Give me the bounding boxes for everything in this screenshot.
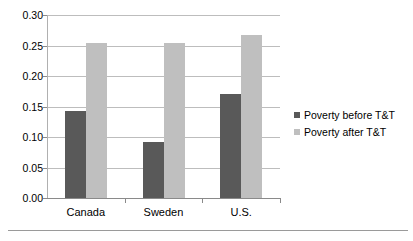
y-axis-tick-mark [43, 46, 47, 47]
x-axis-category-label: Canada [47, 206, 125, 219]
bar [65, 111, 86, 198]
y-axis-tick-labels: 0.000.050.100.150.200.250.30 [0, 0, 43, 241]
y-axis-tick-mark [43, 15, 47, 16]
bar [143, 142, 164, 198]
legend-swatch-icon [294, 112, 300, 118]
y-axis-tick-label: 0.30 [3, 10, 43, 21]
legend-swatch-icon [294, 129, 300, 135]
x-axis-tick-mark [125, 198, 126, 203]
legend-item: Poverty after T&T [294, 123, 412, 140]
y-axis-tick-label: 0.20 [3, 71, 43, 82]
y-axis-tick-mark [43, 107, 47, 108]
bar [86, 43, 107, 198]
y-axis-tick-label: 0.25 [3, 41, 43, 52]
legend-label: Poverty before T&T [304, 109, 395, 121]
y-axis-tick-mark [43, 168, 47, 169]
y-axis-tick-label: 0.05 [3, 163, 43, 174]
x-axis-tick-mark [280, 198, 281, 203]
chart-legend: Poverty before T&TPoverty after T&T [294, 106, 412, 140]
y-axis-tick-label: 0.00 [3, 193, 43, 204]
bar [220, 94, 241, 198]
legend-label: Poverty after T&T [304, 126, 386, 138]
x-axis-category-label: U.S. [202, 206, 280, 219]
x-axis-tick-mark [202, 198, 203, 203]
bar-chart-figure: 0.000.050.100.150.200.250.30 CanadaSwede… [0, 0, 413, 241]
bar [241, 35, 262, 198]
footer-divider [8, 230, 408, 231]
legend-item: Poverty before T&T [294, 106, 412, 123]
x-axis-category-label: Sweden [125, 206, 203, 219]
y-axis-tick-label: 0.10 [3, 132, 43, 143]
gridline [47, 15, 280, 16]
y-axis-tick-mark [43, 137, 47, 138]
y-axis-tick-mark [43, 76, 47, 77]
y-axis-tick-mark [43, 198, 47, 199]
y-axis-line [47, 15, 48, 199]
y-axis-tick-label: 0.15 [3, 102, 43, 113]
x-axis-line [47, 198, 281, 199]
bar [164, 43, 185, 198]
plot-area [47, 15, 280, 198]
